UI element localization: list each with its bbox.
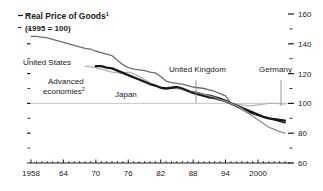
x-axis-tick-label: 70 (91, 169, 100, 178)
x-axis-tick-label: 88 (189, 169, 198, 178)
annotation-germany: Germany (259, 65, 292, 74)
real-price-of-goods-line-chart: 195864707682889420006080100120140160Real… (0, 0, 323, 191)
chart-subtitle: (1995 = 100) (25, 24, 71, 33)
y-axis-tick-label: 100 (298, 99, 312, 108)
chart-figure: 195864707682889420006080100120140160Real… (0, 0, 323, 191)
x-axis-tick-label: 1958 (22, 169, 40, 178)
y-axis-tick-label: 80 (298, 129, 307, 138)
x-axis-tick-label: 2000 (249, 169, 267, 178)
x-axis-tick-label: 94 (221, 169, 230, 178)
y-axis-tick-label: 120 (298, 70, 312, 79)
annotation-japan: Japan (115, 90, 137, 99)
chart-title: Real Price of Goods1 (25, 11, 109, 21)
x-axis-tick-label: 76 (124, 169, 133, 178)
annotation-united-states: United States (23, 58, 71, 67)
x-axis-tick-label: 64 (59, 169, 68, 178)
x-axis-tick-label: 82 (156, 169, 165, 178)
annotation-united-kingdom: United Kingdom (169, 65, 226, 74)
annotation-advanced-economies-2: economies2 (43, 86, 85, 96)
y-axis-tick-label: 160 (298, 10, 312, 19)
y-axis-tick-label: 60 (298, 159, 307, 168)
annotation-advanced-economies: Advanced (48, 77, 84, 86)
y-axis-tick-label: 140 (298, 40, 312, 49)
